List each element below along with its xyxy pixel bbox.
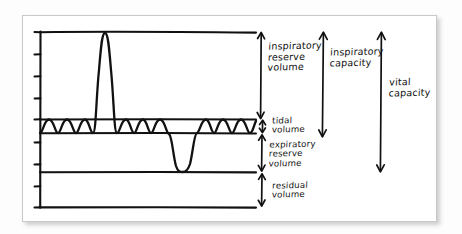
label-residual-volume: residual volume: [272, 180, 327, 200]
level-line-total-lung-capacity: [40, 32, 256, 33]
arrow-expiratory-reserve-volume: [258, 135, 265, 171]
volume-arrows: [257, 32, 265, 206]
label-vital-capacity: vital capacity: [388, 76, 437, 98]
breathing-trace: [40, 33, 256, 172]
label-inspiratory-capacity: inspiratory capacity: [329, 46, 388, 68]
label-tidal-volume: tidal volume: [272, 115, 325, 135]
arrow-inspiratory-reserve-volume: [257, 32, 264, 118]
label-inspiratory-reserve-volume: inspiratory reserve volume: [267, 40, 329, 73]
arrow-tidal-volume: [259, 120, 265, 132]
arrow-residual-volume: [258, 174, 265, 206]
figure-canvas: inspiratory reserve volume tidal volume …: [0, 0, 462, 234]
spirogram-drawing: [0, 0, 462, 234]
label-expiratory-reserve-volume: expiratory reserve volume: [268, 139, 327, 168]
